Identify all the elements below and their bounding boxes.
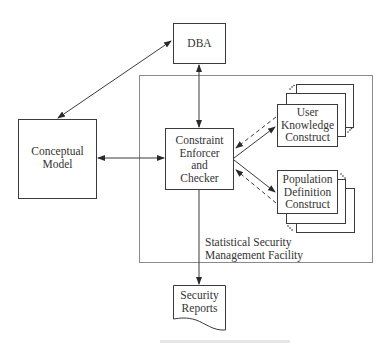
constraint-enforcer-line1: Constraint [165, 134, 234, 147]
conceptual-model-line2: Model [18, 158, 97, 171]
facility-label: Statistical Security Management Facility [205, 236, 355, 261]
edge-dba-conceptual [58, 41, 171, 118]
edge-population-enforcer-dashed [236, 170, 276, 203]
security-reports-label: Security Reports [173, 289, 226, 314]
user-knowledge-line3: Construct [277, 131, 338, 144]
conceptual-model-line1: Conceptual [18, 145, 97, 158]
edge-enforcer-user-solid [234, 127, 275, 158]
constraint-enforcer-line2: Enforcer [165, 147, 234, 160]
population-definition-label: Population Definition Construct [277, 173, 338, 211]
conceptual-model-label: Conceptual Model [18, 145, 97, 170]
user-knowledge-line2: Knowledge [277, 119, 338, 132]
security-reports-line1: Security [173, 289, 226, 302]
constraint-enforcer-label: Constraint Enforcer and Checker [165, 134, 234, 184]
population-definition-line1: Population [277, 173, 338, 186]
constraint-enforcer-line4: Checker [165, 172, 234, 185]
illegible-caption [160, 340, 290, 343]
population-definition-line3: Construct [277, 198, 338, 211]
population-definition-line2: Definition [277, 186, 338, 199]
security-reports-line2: Reports [173, 302, 226, 315]
edge-user-enforcer-dashed [236, 117, 276, 148]
user-knowledge-label: User Knowledge Construct [277, 106, 338, 144]
constraint-enforcer-line3: and [165, 159, 234, 172]
facility-label-line1: Statistical Security [205, 236, 355, 249]
dba-label: DBA [173, 37, 226, 50]
dba-text: DBA [187, 37, 211, 49]
edge-enforcer-population-solid [234, 160, 275, 192]
facility-label-line2: Management Facility [205, 249, 355, 262]
user-knowledge-line1: User [277, 106, 338, 119]
